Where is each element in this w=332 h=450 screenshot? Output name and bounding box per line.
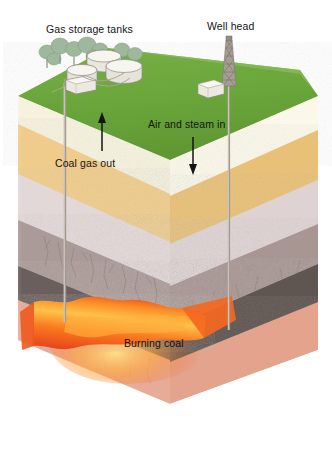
diagram-canvas: Gas storage tanks Well head Air and stea… — [0, 0, 332, 450]
coal-gasification-illustration: Gas storage tanks Well head Air and stea… — [0, 0, 332, 450]
label-burning-coal: Burning coal — [124, 337, 184, 349]
label-well-head: Well head — [207, 20, 254, 32]
label-gas-storage-tanks: Gas storage tanks — [46, 23, 133, 35]
label-air-and-steam-in: Air and steam in — [148, 118, 226, 130]
label-coal-gas-out: Coal gas out — [55, 157, 115, 169]
